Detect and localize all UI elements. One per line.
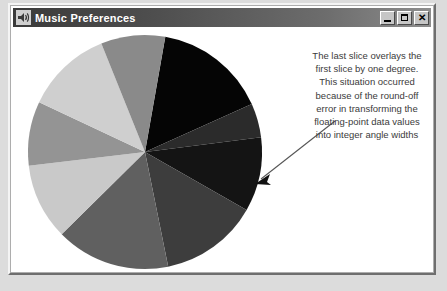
annotation-line: The last slice overlays the — [291, 49, 431, 62]
page-root: Music Preferences ✕ — [0, 0, 447, 291]
close-button[interactable]: ✕ — [414, 11, 429, 25]
speaker-icon — [16, 10, 31, 25]
window-inner-frame: Music Preferences ✕ — [10, 5, 434, 273]
maximize-button[interactable] — [397, 11, 412, 25]
minimize-button[interactable] — [380, 11, 395, 25]
annotation-line: This situation occurred — [291, 75, 431, 88]
maximize-icon — [401, 14, 408, 21]
annotation-line: error in transforming the — [291, 102, 431, 115]
window-controls: ✕ — [380, 11, 429, 25]
pie-chart — [21, 29, 271, 270]
title-bar[interactable]: Music Preferences ✕ — [13, 8, 431, 27]
pie-slice-group — [28, 35, 262, 269]
annotation-line: because of the round-off — [291, 89, 431, 102]
close-icon: ✕ — [415, 12, 428, 24]
application-window: Music Preferences ✕ — [8, 3, 436, 275]
minimize-icon — [384, 20, 391, 22]
window-title: Music Preferences — [35, 12, 380, 24]
annotation-line: first slice by one degree. — [291, 62, 431, 75]
annotation-line: floating-point data values — [291, 115, 431, 128]
annotation-text: The last slice overlays the first slice … — [291, 49, 431, 141]
client-area: The last slice overlays the first slice … — [13, 27, 431, 270]
annotation-line: into integer angle widths — [291, 128, 431, 141]
